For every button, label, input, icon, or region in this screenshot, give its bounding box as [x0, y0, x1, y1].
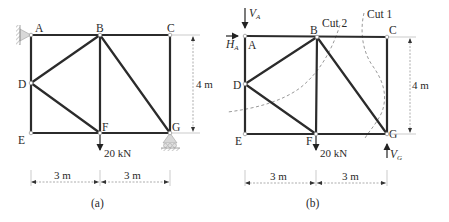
span-dimension-b: [245, 170, 387, 186]
roller-support-icon: [161, 133, 180, 151]
caption-a: (a): [91, 197, 104, 210]
cut-1-label: Cut 1: [367, 8, 392, 20]
pin-support-icon: [16, 25, 31, 45]
truss-members-b: [245, 36, 388, 134]
node-label-d: D: [18, 78, 26, 90]
span1-label-a: 3 m: [54, 169, 71, 181]
node-label-a-b: A: [248, 39, 257, 51]
cut-1-line: [362, 13, 384, 140]
figure-b: A B C D E F G VA HA VG Cut 2 Cut 1 20 kN: [225, 7, 429, 210]
truss-figures-svg: A B C D E F G 20 kN 4 m: [0, 0, 449, 222]
reaction-vg-label: VG: [390, 148, 402, 162]
cut-2-label: Cut 2: [322, 17, 347, 29]
node-label-b: B: [96, 22, 104, 34]
node-label-a: A: [35, 22, 44, 34]
node-label-g: G: [172, 121, 180, 133]
truss-diagram: A B C D E F G 20 kN 4 m: [0, 0, 449, 222]
reaction-va-label: VA: [249, 7, 261, 21]
node-label-d-b: D: [233, 79, 241, 91]
height-label-a: 4 m: [196, 78, 213, 90]
node-label-e: E: [18, 134, 25, 146]
truss-members-a: [31, 35, 170, 133]
span-dimension-a: [31, 170, 170, 186]
node-label-e-b: E: [235, 135, 242, 147]
span2-label-a: 3 m: [124, 169, 141, 181]
figure-a: A B C D E F G 20 kN 4 m: [16, 22, 213, 210]
node-label-f: F: [102, 121, 108, 133]
node-label-b-b: B: [310, 24, 318, 36]
node-label-f-b: F: [306, 135, 312, 147]
node-label-c-b: C: [389, 24, 397, 36]
reaction-ha-label: HA: [225, 38, 239, 52]
node-label-c: C: [167, 22, 175, 34]
load-label-a: 20 kN: [104, 147, 131, 159]
load-label-b: 20 kN: [320, 147, 347, 159]
span2-label-b: 3 m: [342, 170, 359, 182]
span1-label-b: 3 m: [270, 170, 287, 182]
caption-b: (b): [306, 197, 320, 210]
height-label-b: 4 m: [412, 79, 429, 91]
